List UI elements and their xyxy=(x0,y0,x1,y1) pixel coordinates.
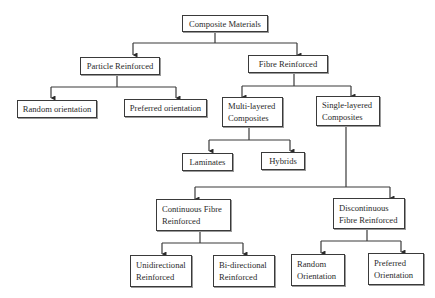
node-random-orientation: Random Orientation xyxy=(291,254,345,286)
node-composite-materials: Composite Materials xyxy=(182,15,268,32)
node-hybrids: Hybrids xyxy=(261,152,305,170)
node-discontinuous-fibre-reinforced: Discontinuous Fibre Reinforced xyxy=(333,198,405,229)
node-single-layered-composites: Single-layered Composites xyxy=(316,96,380,126)
node-bidirectional-reinforced: Bi-directional Reinforced xyxy=(213,255,275,287)
composite-materials-diagram: Composite Materials Particle Reinforced … xyxy=(0,0,435,298)
node-preferred-orientation: Preferred Orientation xyxy=(368,253,424,285)
node-continuous-fibre-reinforced: Continuous Fibre Reinforced xyxy=(156,199,231,231)
node-laminates: Laminates xyxy=(182,153,233,171)
node-particle-reinforced: Particle Reinforced xyxy=(80,57,160,75)
node-unidirectional-reinforced: Unidirectional Reinforced xyxy=(130,255,192,287)
node-particle-random-orientation: Random orientation xyxy=(17,100,97,118)
node-fibre-reinforced: Fibre Reinforced xyxy=(248,55,328,73)
node-particle-preferred-orientation: Preferred orientation xyxy=(124,99,207,117)
node-multi-layered-composites: Multi-layered Composites xyxy=(222,97,283,127)
